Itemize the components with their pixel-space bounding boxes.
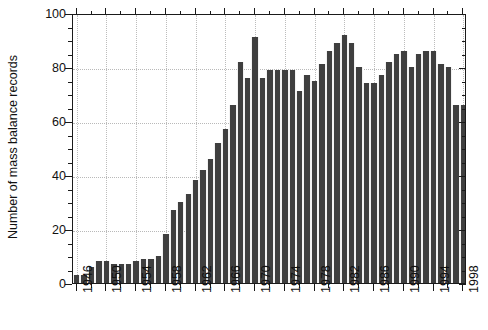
y-tick-label: 80 [26, 61, 66, 75]
x-tick-label: 1986 [378, 265, 392, 293]
y-tick-major [65, 122, 72, 123]
y-tick-minor [68, 136, 72, 137]
y-tick-major [65, 284, 72, 285]
x-tick-major [462, 284, 463, 291]
bar [251, 37, 258, 283]
x-tick-minor-top [150, 11, 151, 15]
bar [296, 91, 303, 283]
bar [326, 51, 333, 283]
y-tick-major-right [459, 122, 466, 123]
x-tick-label: 1966 [229, 265, 243, 293]
x-tick-major [343, 284, 344, 291]
bar [400, 51, 407, 283]
bar [214, 143, 221, 283]
y-tick-minor-right [462, 190, 466, 191]
x-tick-minor-top [388, 11, 389, 15]
x-tick-minor-top [358, 11, 359, 15]
x-tick-major [403, 284, 404, 291]
x-tick-minor-top [180, 11, 181, 15]
x-tick-major [373, 284, 374, 291]
y-tick-minor [68, 41, 72, 42]
bar [341, 35, 348, 283]
bar [281, 70, 288, 283]
x-tick-label: 1970 [259, 265, 273, 293]
x-tick-major [135, 284, 136, 291]
y-tick-minor-right [462, 109, 466, 110]
x-tick-label: 1946 [81, 265, 95, 293]
x-tick-label: 1958 [170, 265, 184, 293]
bar [422, 51, 429, 283]
bar [445, 67, 452, 283]
bar [73, 275, 80, 283]
x-tick-major [195, 284, 196, 291]
bar [452, 105, 459, 283]
bar [95, 261, 102, 283]
y-tick-label: 100 [26, 7, 66, 21]
bar [237, 62, 244, 283]
x-tick-major-top [224, 8, 225, 15]
bar [125, 264, 132, 283]
x-tick-minor-top [239, 11, 240, 15]
bar [318, 64, 325, 283]
bar [222, 129, 229, 283]
bar [162, 234, 169, 283]
x-tick-minor-top [447, 11, 448, 15]
y-tick-minor-right [462, 203, 466, 204]
bar [363, 83, 370, 283]
y-tick-minor [68, 244, 72, 245]
x-tick-major-top [462, 8, 463, 15]
bar [348, 43, 355, 283]
y-tick-major [65, 230, 72, 231]
x-tick-major-top [135, 8, 136, 15]
x-tick-label: 1998 [467, 265, 481, 293]
bar [303, 75, 310, 283]
y-tick-minor-right [462, 257, 466, 258]
y-tick-minor [68, 217, 72, 218]
y-tick-major [65, 14, 72, 15]
bar [430, 51, 437, 283]
x-tick-major-top [314, 8, 315, 15]
bar [274, 70, 281, 283]
y-tick-minor-right [462, 163, 466, 164]
x-tick-label: 1994 [438, 265, 452, 293]
x-tick-major [76, 284, 77, 291]
y-tick-minor-right [462, 217, 466, 218]
y-tick-minor-right [462, 271, 466, 272]
y-tick-minor-right [462, 95, 466, 96]
bar [244, 78, 251, 283]
x-tick-label: 1950 [110, 265, 124, 293]
x-tick-minor-top [210, 11, 211, 15]
y-tick-minor [68, 109, 72, 110]
bar [192, 180, 199, 283]
y-tick-label: 40 [26, 169, 66, 183]
y-tick-major-right [459, 68, 466, 69]
bar [333, 43, 340, 283]
x-tick-minor-top [91, 11, 92, 15]
x-tick-minor-top [299, 11, 300, 15]
bar [415, 54, 422, 284]
x-tick-major [105, 284, 106, 291]
bar [289, 70, 296, 283]
bar [311, 81, 318, 284]
y-tick-label: 0 [26, 277, 66, 291]
x-tick-major-top [76, 8, 77, 15]
y-axis-title: Number of mass balance records [2, 5, 24, 289]
bar [378, 75, 385, 283]
x-tick-major [314, 284, 315, 291]
y-tick-minor-right [462, 82, 466, 83]
y-tick-major [65, 176, 72, 177]
x-tick-major [284, 284, 285, 291]
bar [229, 105, 236, 283]
chart-figure: Number of mass balance records 020406080… [0, 0, 488, 330]
x-tick-major-top [373, 8, 374, 15]
x-tick-major-top [284, 8, 285, 15]
x-tick-label: 1954 [140, 265, 154, 293]
x-tick-label: 1962 [200, 265, 214, 293]
y-tick-major-right [459, 230, 466, 231]
x-tick-major [165, 284, 166, 291]
y-tick-major [65, 68, 72, 69]
x-tick-major [433, 284, 434, 291]
x-tick-minor-top [418, 11, 419, 15]
x-tick-minor-top [120, 11, 121, 15]
y-tick-minor-right [462, 55, 466, 56]
